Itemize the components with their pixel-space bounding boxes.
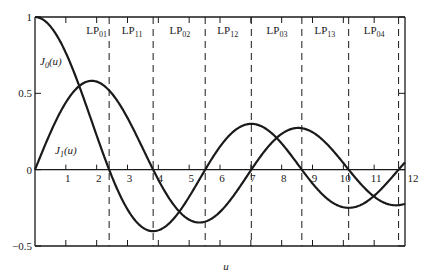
region-label-lp02: LP02 [169,24,190,39]
x-tick-label: 5 [188,172,194,184]
curve-j0u [35,17,405,231]
x-tick-label: 11 [371,172,382,184]
x-tick-label: 7 [250,172,256,184]
j1-label: J1(u) [55,144,77,159]
x-tick-label: 6 [219,172,225,184]
chart-labels: J0(u)J1(u)LP01LP11LP02LP12LP03LP13LP04u [40,24,385,272]
bessel-function-chart: 123456789101112−0.500.51 J0(u)J1(u)LP01L… [0,0,426,277]
bessel-curves [35,17,405,231]
x-tick-label: 3 [127,172,133,184]
y-tick-label: 0 [27,164,33,176]
x-tick-label: 12 [408,172,419,184]
x-axis-title: u [223,260,229,272]
x-tick-label: 1 [65,172,71,184]
region-label-lp11: LP11 [122,24,143,39]
x-tick-label: 10 [340,172,352,184]
x-tick-label: 9 [312,172,318,184]
y-tick-label: −0.5 [12,240,32,252]
region-label-lp03: LP03 [267,24,288,39]
x-tick-label: 2 [96,172,102,184]
x-tick-label: 8 [281,172,287,184]
region-label-lp12: LP12 [217,24,238,39]
j0-label: J0(u) [40,55,62,70]
mode-cutoff-lines [109,17,398,246]
y-tick-label: 0.5 [18,87,32,99]
y-tick-label: 1 [27,11,33,23]
curve-j1u [35,81,405,223]
region-label-lp13: LP13 [314,24,335,39]
region-label-lp04: LP04 [364,24,385,39]
region-label-lp01: LP01 [86,24,107,39]
